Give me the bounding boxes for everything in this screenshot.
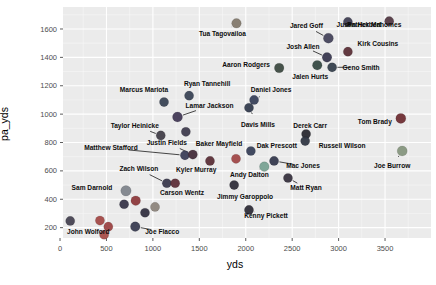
- y-tick-label: 1000: [40, 110, 57, 119]
- x-tick-label: 2000: [237, 244, 254, 253]
- data-point-label: Tua Tagovailoa: [199, 30, 246, 38]
- x-tick-label: 3000: [330, 244, 347, 253]
- data-point-label: Dak Prescott: [257, 142, 298, 149]
- data-point-label: Aaron Rodgers: [222, 61, 270, 69]
- data-point-label: Matthew Stafford: [84, 144, 137, 151]
- data-point: [131, 196, 141, 206]
- data-point: [301, 136, 310, 145]
- data-point: [120, 200, 129, 209]
- x-tick-label: 0: [58, 244, 62, 253]
- scatter-plot-figure: 0500100015002000250030003500200400600800…: [0, 0, 436, 285]
- data-point: [181, 127, 190, 136]
- data-point: [232, 19, 242, 29]
- data-point-label: Joe Flacco: [145, 228, 179, 235]
- data-point-label: Tom Brady: [358, 118, 392, 126]
- data-point: [95, 216, 104, 225]
- data-point: [171, 179, 180, 188]
- data-point: [159, 97, 168, 106]
- data-point: [322, 53, 332, 63]
- data-point: [66, 216, 75, 225]
- data-point-label: Davis Mills: [241, 121, 275, 128]
- data-point-label: Kenny Pickett: [244, 212, 288, 220]
- data-point: [343, 47, 352, 56]
- x-tick-label: 1500: [191, 244, 208, 253]
- data-point: [283, 173, 292, 182]
- data-point-label: Jared Goff: [290, 22, 324, 29]
- data-point: [140, 208, 149, 217]
- data-point-label: Jalen Hurts: [292, 73, 328, 80]
- data-point-label: Marcus Mariota: [120, 86, 169, 93]
- data-point: [323, 33, 333, 43]
- data-point-label: Daniel Jones: [251, 86, 292, 93]
- data-point: [397, 146, 407, 156]
- data-point-label: Baker Mayfield: [196, 140, 243, 148]
- data-point-label: Geno Smith: [343, 64, 380, 71]
- data-point: [274, 63, 284, 73]
- data-point: [150, 202, 159, 211]
- data-point: [231, 154, 240, 163]
- data-point: [250, 95, 259, 104]
- y-tick-label: 1600: [40, 25, 57, 34]
- y-tick-label: 600: [44, 166, 57, 175]
- data-point: [205, 156, 214, 165]
- data-point: [185, 91, 194, 100]
- data-point-label: Derek Carr: [293, 122, 327, 129]
- data-point: [162, 179, 171, 188]
- data-point-label: Jimmy Garoppolo: [217, 193, 273, 201]
- data-point: [188, 150, 197, 159]
- data-point-label: Zach Wilson: [119, 165, 158, 172]
- label-leader-line: [398, 156, 399, 157]
- y-tick-label: 1400: [40, 53, 57, 62]
- x-tick-label: 2500: [284, 244, 301, 253]
- x-tick-label: 3500: [377, 244, 394, 253]
- data-point-label: Kirk Cousins: [358, 40, 399, 47]
- data-point: [312, 60, 322, 70]
- data-point-label: Kyler Murray: [176, 166, 217, 174]
- data-point: [396, 113, 406, 123]
- y-tick-label: 800: [44, 138, 57, 147]
- data-point: [130, 222, 140, 232]
- data-point-label: Russell Wilson: [319, 142, 366, 149]
- data-point-label: Taylor Heinicke: [111, 122, 160, 130]
- y-axis-title: pa_yds: [0, 94, 10, 154]
- data-point-label: Lamar Jackson: [185, 102, 233, 109]
- data-point-label: Sam Darnold: [72, 184, 113, 191]
- data-point-label: John Wolford: [67, 228, 109, 235]
- data-point: [244, 103, 253, 112]
- data-point: [246, 146, 255, 155]
- data-point: [269, 156, 278, 165]
- data-point-label: Andy Dalton: [230, 171, 269, 179]
- data-point-label: Patrick Mahomes: [347, 21, 402, 28]
- x-tick-label: 500: [100, 244, 113, 253]
- data-point-label: Mac Jones: [286, 162, 320, 169]
- data-point-label: Justin Fields: [147, 139, 188, 146]
- data-point-label: Matt Ryan: [290, 184, 322, 192]
- y-tick-label: 400: [44, 195, 57, 204]
- label-leader-line: [259, 97, 260, 98]
- data-point: [121, 186, 131, 196]
- scatter-chart: 0500100015002000250030003500200400600800…: [0, 0, 436, 285]
- data-point-label: Carson Wentz: [160, 189, 205, 196]
- y-tick-label: 200: [44, 223, 57, 232]
- data-point: [230, 180, 239, 189]
- data-point: [328, 63, 337, 72]
- x-tick-label: 1000: [145, 244, 162, 253]
- data-point-label: Joe Burrow: [374, 162, 411, 169]
- x-axis-title: yds: [175, 258, 295, 270]
- data-point: [172, 112, 182, 122]
- y-tick-label: 1200: [40, 81, 57, 90]
- data-point-label: Ryan Tannehill: [184, 80, 231, 88]
- data-point-label: Josh Allen: [286, 43, 319, 50]
